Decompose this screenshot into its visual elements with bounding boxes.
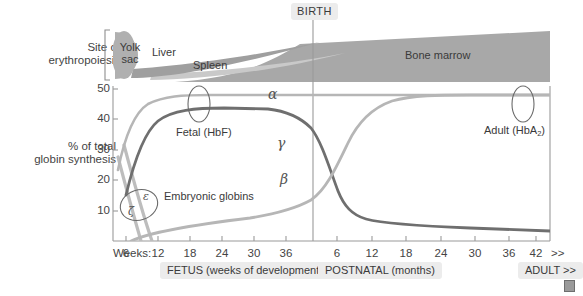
x-axis-overflow-symbol: >>	[551, 247, 564, 259]
stage-chip-adult: ADULT >>	[518, 262, 583, 279]
beta-curve-label: β	[280, 171, 288, 187]
x-tick-postnatal-24: 24	[429, 247, 453, 259]
fetal-hbf-annotation: Fetal (HbF)	[176, 126, 232, 138]
embryonic-globins-highlight-ellipse	[116, 185, 161, 225]
liver-label: Liver	[152, 47, 176, 59]
y-tick-20: 20	[84, 173, 110, 185]
globin-curves	[118, 95, 550, 241]
erythropoiesis-bracket	[105, 30, 110, 80]
beta-curve	[131, 95, 550, 241]
stage-chip-fetus: FETUS (weeks of development)	[160, 262, 330, 279]
yolk-sac-label-line-2: sac	[121, 53, 138, 65]
yolk-sac-label-line-1: Yolk	[120, 41, 140, 53]
y-tick-marks	[113, 89, 118, 211]
y-tick-30: 30	[84, 143, 110, 155]
x-tick-fetal-36: 36	[274, 247, 298, 259]
y-tick-50: 50	[84, 82, 110, 94]
x-tick-fetal-6: 6	[114, 247, 138, 259]
x-tick-marks-postnatal	[337, 236, 536, 241]
x-tick-postnatal-18: 18	[394, 247, 418, 259]
adult-hba2-text-before: Adult (HbA	[484, 124, 537, 136]
x-tick-fetal-12: 12	[146, 247, 170, 259]
adult-hba2-annotation: Adult (HbA2)	[484, 124, 545, 136]
epsilon-curve-label: ε	[143, 190, 149, 203]
bone-marrow-label: Bone marrow	[405, 50, 470, 62]
alpha-curve-label: α	[268, 86, 277, 102]
y-tick-10: 10	[84, 204, 110, 216]
adult-hba2-highlight-ellipse	[512, 86, 534, 122]
x-tick-fetal-30: 30	[242, 247, 266, 259]
x-tick-postnatal-12: 12	[360, 247, 384, 259]
yolk-sac-label: Yolk sac	[118, 42, 142, 65]
adult-hba2-text-after: )	[541, 124, 545, 136]
figure-credit-icon	[564, 280, 575, 292]
stage-chip-postnatal: POSTNATAL (months)	[318, 262, 442, 279]
x-tick-postnatal-42: 42	[524, 247, 548, 259]
x-tick-postnatal-30: 30	[463, 247, 487, 259]
birth-marker-label: BIRTH	[291, 3, 338, 20]
x-tick-postnatal-36: 36	[497, 247, 521, 259]
embryonic-globins-annotation: Embryonic globins	[164, 190, 254, 202]
spleen-label: Spleen	[193, 60, 227, 72]
x-tick-fetal-24: 24	[210, 247, 234, 259]
fetal-hbf-highlight-ellipse	[188, 86, 210, 122]
gamma-curve-label: γ	[277, 135, 285, 151]
zeta-curve-label: ζ	[128, 205, 134, 218]
x-tick-postnatal-6: 6	[325, 247, 349, 259]
y-tick-40: 40	[84, 112, 110, 124]
adult-hba2-subscript: 2	[537, 129, 541, 138]
erythropoiesis-band-group	[112, 31, 550, 82]
x-tick-fetal-18: 18	[178, 247, 202, 259]
